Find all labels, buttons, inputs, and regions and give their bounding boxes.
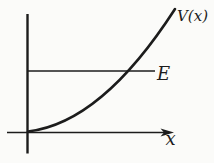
- potential-curve: [28, 9, 175, 132]
- diagram-canvas: V(x) E x: [0, 0, 214, 163]
- potential-curve-label: V(x): [177, 7, 208, 25]
- energy-level-label: E: [156, 63, 170, 84]
- x-axis-label: x: [166, 128, 176, 149]
- potential-energy-diagram: V(x) E x: [0, 0, 214, 163]
